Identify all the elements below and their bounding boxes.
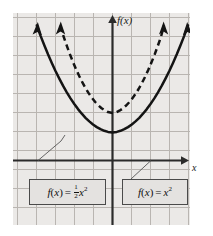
equals-right: = (155, 187, 161, 198)
paren-close-left: ) (59, 187, 63, 198)
paren-close-right: ) (150, 187, 154, 198)
y-axis-arrowhead (108, 15, 117, 23)
callout-box-half-x-squared: f(x)=12x2 (29, 179, 106, 205)
leader-helper (38, 163, 118, 179)
fraction-denominator: 2 (74, 193, 78, 201)
callout-box-x-squared: f(x)=x2 (122, 179, 188, 205)
y-axis-label: f(x) (117, 15, 132, 26)
x-axis-arrowhead (181, 156, 189, 165)
equation-half-x-squared: f(x)=12x2 (48, 184, 88, 200)
curve-x-squared-arrowhead-right (159, 22, 168, 35)
fraction-numerator: 1 (74, 184, 78, 192)
leader-line-left (38, 141, 61, 161)
leader-line-right (131, 161, 151, 180)
curve-half-x-squared-arrowhead-left (33, 22, 42, 36)
parabola-figure: f(x) x f(x)=12x2 f(x)=x2 (0, 0, 213, 236)
equation-x-squared: f(x)=x2 (138, 187, 172, 198)
leader-line-left-tip (61, 135, 65, 141)
x-axis-label: x (192, 163, 196, 173)
curve-x-squared-arrowhead-left (56, 22, 65, 35)
fraction-one-half: 12 (74, 184, 79, 200)
equals-left: = (65, 187, 71, 198)
exponent-right: 2 (168, 186, 172, 193)
exponent-left: 2 (84, 186, 88, 193)
